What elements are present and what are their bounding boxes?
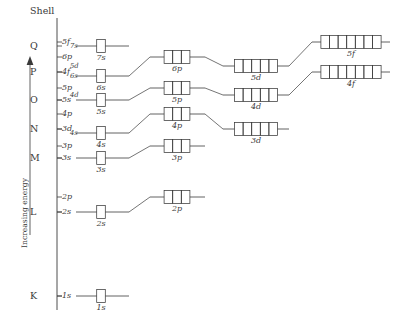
orbital-box-bg-3p — [164, 140, 190, 153]
connector-4p-to-3d — [205, 114, 223, 129]
orbital-label-5d: 5d — [236, 74, 276, 82]
orbital-box-group-3p — [164, 140, 190, 153]
axis-tick-label-5d: 5d — [70, 63, 79, 70]
orbital-box-bg-3d — [235, 123, 278, 136]
orbital-box-group-1s — [97, 290, 106, 303]
connector-4d-to-4f — [289, 72, 312, 95]
orbital-label-4f: 4f — [331, 80, 371, 88]
orbital-box-group-5p — [164, 82, 190, 95]
connector-6s-to-6p — [129, 57, 150, 76]
orbital-label-3d: 3d — [236, 137, 276, 145]
orbital-label-5f: 5f — [331, 50, 371, 58]
axis-tick-label-1s: 1s — [62, 292, 71, 300]
shell-column-header: Shell — [30, 6, 54, 16]
orbital-box-bg-3s — [97, 152, 106, 165]
orbital-box-group-4f — [321, 66, 381, 79]
orbital-box-group-7s — [97, 40, 106, 53]
orbital-label-6s: 6s — [81, 84, 121, 92]
orbital-box-bg-5p — [164, 82, 190, 95]
orbital-box-group-5s — [97, 94, 106, 107]
axis-tick-label-6s: 6s — [70, 73, 78, 80]
axis-tick-label-5f: 5f — [62, 38, 70, 46]
orbital-box-group-2s — [97, 206, 106, 219]
orbital-energy-diagram: Shell Increasing energy QPONMLK5f7s6p5d4… — [0, 0, 407, 320]
orbital-box-group-3d — [235, 123, 278, 136]
orbital-box-bg-5d — [235, 60, 278, 73]
orbital-box-bg-6s — [97, 70, 106, 83]
orbital-label-3p: 3p — [157, 154, 197, 162]
axis-tick-label-2s: 2s — [62, 208, 71, 216]
orbital-box-group-5f — [321, 36, 381, 49]
orbital-box-group-4p — [164, 108, 190, 121]
shell-letter-Q: Q — [30, 41, 38, 51]
orbital-label-6p: 6p — [157, 65, 197, 73]
orbital-label-3s: 3s — [81, 166, 121, 174]
orbital-box-bg-4d — [235, 89, 278, 102]
orbital-label-2p: 2p — [157, 205, 197, 213]
connector-5s-to-5p — [129, 88, 150, 100]
orbital-box-bg-5f — [321, 36, 381, 49]
connector-5p-to-4d — [205, 88, 223, 95]
shell-letter-K: K — [30, 291, 37, 301]
axis-tick-label-4s: 4s — [70, 130, 78, 137]
orbital-box-group-4s — [97, 127, 106, 140]
shell-letter-L: L — [30, 207, 36, 217]
shell-letter-N: N — [30, 124, 38, 134]
orbital-box-bg-7s — [97, 40, 106, 53]
axis-tick-label-5s: 5s — [62, 96, 71, 104]
orbital-label-7s: 7s — [81, 54, 121, 62]
axis-tick-label-3p: 3p — [62, 142, 72, 150]
y-axis-title: Increasing energy — [20, 178, 29, 248]
orbital-box-bg-2s — [97, 206, 106, 219]
shell-letter-O: O — [30, 95, 38, 105]
orbital-box-group-6p — [164, 51, 190, 64]
axis-tick-label-3s: 3s — [62, 154, 71, 162]
orbital-box-bg-4s — [97, 127, 106, 140]
orbital-box-group-2p — [164, 191, 190, 204]
axis-tick-label-7s: 7s — [70, 43, 78, 50]
connector-5d-to-5f — [289, 42, 312, 66]
orbital-box-bg-4p — [164, 108, 190, 121]
connector-4s-to-4p — [129, 114, 150, 133]
shell-letter-M: M — [30, 153, 40, 163]
axis-tick-label-4p: 4p — [62, 110, 72, 118]
orbital-box-group-4d — [235, 89, 278, 102]
axis-tick-label-4f: 4f — [62, 68, 70, 76]
orbital-label-4s: 4s — [81, 141, 121, 149]
orbital-box-bg-2p — [164, 191, 190, 204]
orbital-box-group-6s — [97, 70, 106, 83]
axis-tick-label-2p: 2p — [62, 193, 72, 201]
connector-3s-to-3p — [129, 146, 150, 158]
orbital-label-5s: 5s — [81, 108, 121, 116]
axis-tick-label-6p: 6p — [62, 53, 72, 61]
orbital-label-4p: 4p — [157, 122, 197, 130]
connector-6p-to-5d — [205, 57, 223, 66]
axis-tick-label-4d: 4d — [70, 92, 79, 99]
orbital-label-4d: 4d — [236, 103, 276, 111]
orbital-box-bg-6p — [164, 51, 190, 64]
orbital-box-group-3s — [97, 152, 106, 165]
orbital-label-1s: 1s — [81, 304, 121, 312]
connector-2s-to-2p — [129, 197, 150, 212]
shell-letter-P: P — [30, 67, 36, 77]
orbital-box-bg-1s — [97, 290, 106, 303]
orbital-box-bg-4f — [321, 66, 381, 79]
orbital-label-5p: 5p — [157, 96, 197, 104]
orbital-box-group-5d — [235, 60, 278, 73]
orbital-box-bg-5s — [97, 94, 106, 107]
orbital-label-2s: 2s — [81, 220, 121, 228]
up-arrow-icon — [27, 56, 34, 65]
